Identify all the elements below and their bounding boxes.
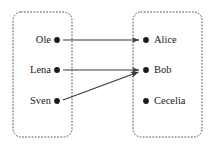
node-dot-cecelia [143,98,149,104]
node-dot-bob [143,67,149,73]
node-label-alice: Alice [154,35,177,46]
node-dot-lena [54,67,60,73]
mapping-diagram: Ole Lena Sven Alice Bob Cecelia [0,0,213,148]
node-label-cecelia: Cecelia [154,96,185,107]
node-dot-sven [54,98,60,104]
node-dot-ole [54,37,60,43]
node-label-bob: Bob [154,65,172,76]
arrow-sven-to-bob [63,72,139,100]
node-dot-alice [143,37,149,43]
node-label-lena: Lena [30,65,51,76]
node-label-ole: Ole [36,35,51,46]
node-label-sven: Sven [30,96,51,107]
